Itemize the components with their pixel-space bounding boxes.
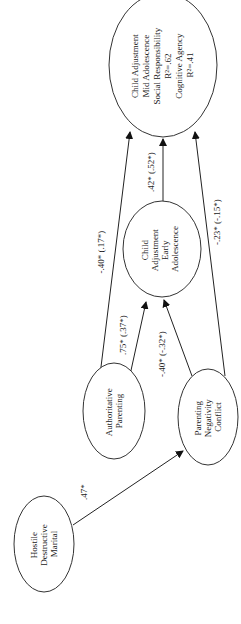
- path-diagram: Child Adjustment Mid Adolescence Social …: [0, 0, 241, 624]
- edge-negativity-early: [164, 300, 192, 376]
- edge-hostile-negativity: [73, 451, 183, 525]
- coef-negativity-early: -.40* (-.32*): [157, 331, 167, 377]
- edge-authoritative-early: [130, 302, 146, 375]
- coef-negativity-mid: -.23* (-.15*): [212, 199, 222, 245]
- coef-hostile-negativity: .47*: [79, 484, 89, 500]
- coef-early-mid: .42* (.52*): [146, 152, 156, 192]
- coef-authoritative-mid: -.40* (.17*): [96, 231, 106, 274]
- label-negativity: Parenting Negativity Conflict: [193, 397, 223, 437]
- coef-authoritative-early: .75* (.37*): [118, 315, 128, 355]
